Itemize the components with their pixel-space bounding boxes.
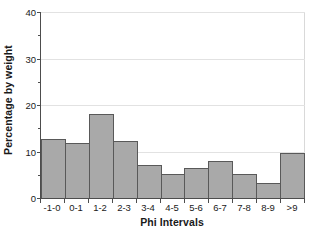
x-axis-title: Phi Intervals [40, 216, 304, 228]
y-tick-label-0: 0 [31, 193, 36, 204]
bar [41, 139, 66, 198]
x-tick-label: 8-9 [256, 202, 280, 216]
x-tick-label: 3-4 [136, 202, 160, 216]
y-axis-title-label: Percentage by weight [2, 45, 14, 155]
bar [184, 168, 209, 198]
y-tick-label-40: 40 [25, 7, 36, 18]
x-tick-label: 2-3 [112, 202, 136, 216]
bar [161, 174, 186, 198]
bar [89, 114, 114, 198]
x-axis-tick-labels: -1-00-11-22-33-44-55-66-77-88-9>9 [40, 202, 304, 216]
x-tick-11 [304, 199, 305, 203]
bar [65, 143, 90, 198]
bar-series [41, 12, 305, 198]
y-tick-label-30: 30 [25, 53, 36, 64]
x-tick-label: 5-6 [184, 202, 208, 216]
y-axis-title: Percentage by weight [0, 0, 16, 200]
plot-area [40, 12, 305, 199]
bar [280, 153, 305, 198]
bar [208, 161, 233, 198]
x-tick-label: 0-1 [64, 202, 88, 216]
x-tick-label: -1-0 [40, 202, 64, 216]
bar [113, 141, 138, 198]
x-tick-label: 4-5 [160, 202, 184, 216]
y-axis-tick-labels: 010203040 [16, 0, 38, 234]
x-tick-label: 1-2 [88, 202, 112, 216]
x-tick-label: 7-8 [232, 202, 256, 216]
x-tick-label: >9 [280, 202, 304, 216]
bar [232, 174, 257, 198]
y-tick-label-10: 10 [25, 146, 36, 157]
bar [256, 183, 281, 198]
y-tick-label-20: 20 [25, 100, 36, 111]
x-tick-label: 6-7 [208, 202, 232, 216]
bar [137, 165, 162, 198]
bar-chart: Percentage by weight 010203040 -1-00-11-… [0, 0, 316, 234]
